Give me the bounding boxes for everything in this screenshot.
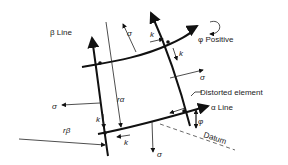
sigma-arrow-bottom [152, 122, 153, 152]
alpha-line-bottom [98, 106, 208, 134]
sigma-label-right: σ [200, 73, 206, 82]
sigma-label-top: σ [127, 29, 133, 38]
datum-label: Datum [202, 130, 228, 146]
phi-label: φ [198, 117, 203, 126]
r-beta-line [19, 139, 105, 145]
beta-line-right [151, 13, 190, 126]
k-label-top: k [150, 30, 155, 39]
sigma-label-bottom: σ [157, 150, 163, 159]
distorted-element-label: Distorted element [200, 88, 263, 97]
r-beta-label: rβ [63, 126, 71, 135]
k-label-left: k [96, 115, 101, 124]
alpha-line-label: α Line [211, 103, 234, 112]
sigma-label-left: σ [52, 102, 58, 111]
r-alpha-label: rα [117, 95, 125, 104]
r-alpha-line [106, 22, 121, 127]
k-label-bottom: k [124, 138, 129, 147]
alpha-line-top [82, 26, 197, 67]
k-label-right: k [179, 49, 184, 58]
k-arrow-right [173, 48, 177, 60]
beta-line-label: β Line [50, 28, 73, 37]
beta-line-left [92, 38, 108, 156]
phi-positive-rotation-icon [210, 21, 220, 34]
k-arrow-top [150, 39, 163, 42]
stress-element-diagram: β Line α Line φ Positive Distorted eleme… [0, 0, 288, 165]
k-arrow-bottom [117, 135, 130, 137]
sigma-arrow-left [62, 103, 100, 105]
phi-positive-label: φ Positive [198, 35, 234, 44]
